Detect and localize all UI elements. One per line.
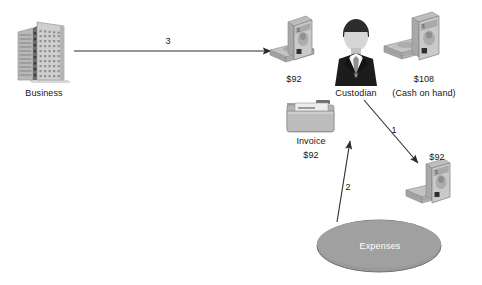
expenses-label: Expenses	[359, 241, 400, 251]
cash-left-amount: $92	[286, 74, 301, 85]
cash-bottom-amount: $92	[429, 152, 444, 163]
svg-text:$: $	[435, 169, 438, 175]
business-label: Business	[25, 88, 62, 99]
custodian-label: Custodian	[335, 88, 376, 99]
invoice-amount: $92	[303, 150, 318, 161]
invoice-folder-icon	[286, 97, 336, 134]
businessman-icon	[331, 14, 381, 86]
arrow-3-number: 3	[165, 36, 170, 46]
office-building-icon	[16, 18, 72, 85]
arrow-2-number: 2	[345, 182, 350, 192]
invoice-label: Invoice	[296, 136, 325, 147]
diagram-canvas: Expenses	[0, 0, 482, 285]
arrow-1-number: 1	[391, 125, 396, 135]
svg-text:$: $	[297, 27, 300, 33]
cash-stack-right-icon: $	[382, 10, 450, 74]
cash-stack-left-icon: $	[268, 12, 330, 72]
svg-text:$: $	[422, 23, 425, 29]
cash-right-note: (Cash on hand)	[392, 88, 455, 99]
cash-right-amount: $108	[414, 74, 434, 85]
cash-stack-bottom-icon: $	[404, 158, 466, 218]
